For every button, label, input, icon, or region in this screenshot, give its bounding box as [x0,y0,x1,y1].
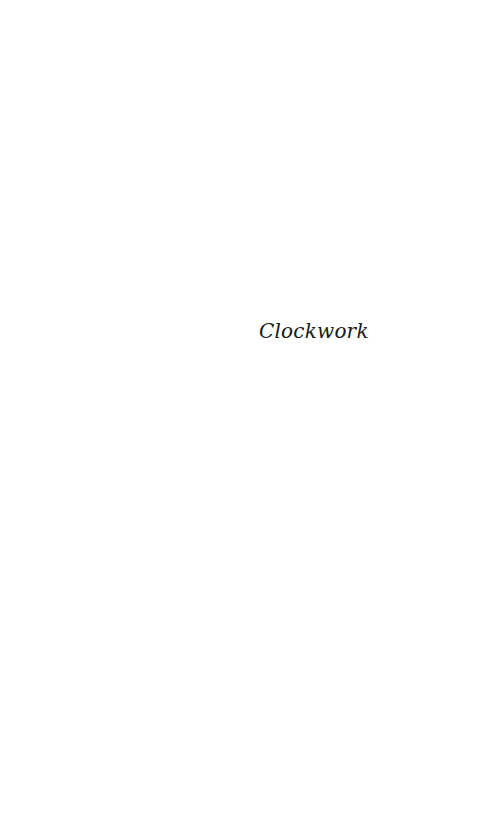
half-title: Clockwork [259,316,369,346]
book-page: Clockwork [0,0,479,816]
